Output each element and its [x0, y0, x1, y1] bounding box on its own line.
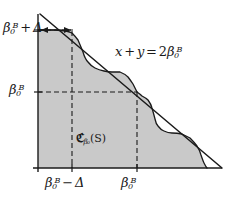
figure-container: β0B+Δ β0B β0B−Δ β0B x+y=2β0B ℭβ₀(S)	[0, 0, 232, 200]
region-arg: (S)	[90, 132, 106, 145]
y-top-delta: Δ	[33, 20, 42, 35]
eq-coefficient: 2	[159, 44, 167, 59]
x-left-sup: B	[54, 176, 60, 185]
y-axis-label-mid: β0B	[9, 83, 24, 98]
line-equation-label: x+y=2β0B	[115, 45, 182, 60]
y-top-sup: B	[12, 21, 18, 30]
y-mid-sup: B	[18, 83, 24, 92]
x-axis-label-right: β0B	[121, 176, 136, 191]
eq-sup: B	[176, 45, 182, 54]
region-label: ℭβ₀(S)	[76, 132, 106, 145]
y-axis-label-top: β0B+Δ	[3, 21, 42, 36]
x-axis-label-left: β0B−Δ	[45, 176, 84, 191]
x-left-delta: Δ	[75, 175, 84, 190]
eq-equals: =	[146, 44, 157, 59]
eq-x: x	[115, 44, 122, 59]
x-right-sup: B	[130, 176, 136, 185]
y-top-operator: +	[20, 20, 31, 35]
x-left-operator: −	[62, 175, 73, 190]
eq-plus: +	[124, 44, 135, 59]
eq-y: y	[137, 44, 144, 59]
